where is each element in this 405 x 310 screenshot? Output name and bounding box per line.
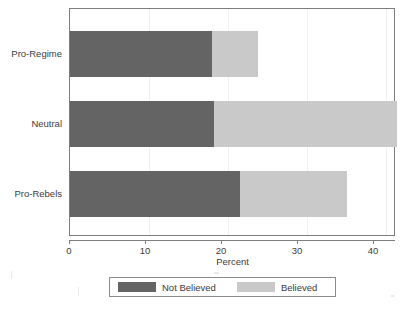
scan-artifact: [214, 272, 219, 274]
x-axis-ticklabel-40: 40: [368, 245, 379, 256]
bar-segment-believed: [240, 171, 347, 217]
x-axis-ticklabel-0: 0: [66, 245, 71, 256]
scan-artifact: [78, 287, 79, 296]
x-axis-tick-10: [145, 240, 146, 244]
x-axis-title: Percent: [0, 256, 405, 267]
bar-segment-believed: [214, 101, 397, 147]
scan-artifact: [391, 295, 394, 297]
legend-entry-believed: Believed: [237, 278, 317, 296]
legend-swatch-icon: [237, 282, 275, 292]
y-axis-label-pro-rebels: Pro-Rebels: [14, 188, 62, 199]
plot-area: [69, 8, 395, 236]
x-axis-title-text: Percent: [216, 256, 249, 267]
x-axis-ticklabel-10: 10: [140, 245, 151, 256]
x-axis-tick-40: [373, 240, 374, 244]
x-axis-line: [69, 240, 395, 241]
x-axis-ticklabel-30: 30: [292, 245, 303, 256]
scan-artifact: [11, 271, 12, 279]
stacked-bar-chart: Pro-Regime Neutral Pro-Rebels 0 10 20 30…: [0, 0, 405, 310]
x-axis-tick-0: [69, 240, 70, 244]
bar-segment-not-believed: [70, 101, 214, 147]
x-axis-ticklabel-20: 20: [216, 245, 227, 256]
legend-label-believed: Believed: [281, 282, 317, 293]
legend: Not Believed Believed: [109, 277, 336, 297]
bar-segment-not-believed: [70, 31, 212, 77]
x-axis-tick-30: [297, 240, 298, 244]
bar-segment-believed: [212, 31, 258, 77]
y-axis-label-pro-regime: Pro-Regime: [11, 48, 62, 59]
legend-entry-not-believed: Not Believed: [118, 278, 216, 296]
bar-segment-not-believed: [70, 171, 240, 217]
y-axis-label-neutral: Neutral: [31, 118, 62, 129]
legend-label-not-believed: Not Believed: [162, 282, 216, 293]
x-axis-tick-20: [221, 240, 222, 244]
legend-swatch-icon: [118, 282, 156, 292]
